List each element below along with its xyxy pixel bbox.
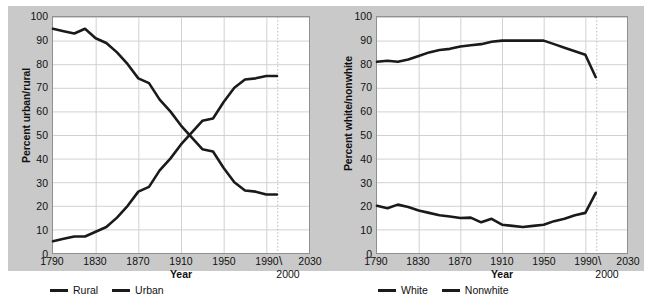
y-tick-label: 80 bbox=[346, 59, 372, 69]
figure-root: Percent urban/rural 10090807060504030201… bbox=[0, 0, 652, 303]
callout-2000-label: 2000 bbox=[595, 268, 618, 280]
y-tick-label: 20 bbox=[346, 201, 372, 211]
y-axis-tick-labels: 1009080706050403020100 bbox=[342, 16, 372, 254]
data-lines bbox=[53, 17, 309, 253]
chart-panel-white-nonwhite: Percent white/nonwhite 10090807060504030… bbox=[326, 6, 644, 271]
y-tick-label: 90 bbox=[346, 35, 372, 45]
y-tick-label: 60 bbox=[346, 106, 372, 116]
plot-area-white-nonwhite bbox=[376, 16, 628, 254]
y-tick-label: 30 bbox=[346, 178, 372, 188]
y-tick-label: 10 bbox=[346, 225, 372, 235]
y-tick-label: 10 bbox=[22, 225, 48, 235]
y-tick-label: 40 bbox=[346, 154, 372, 164]
x-tick-label: 1990 bbox=[574, 255, 597, 267]
y-tick-label: 50 bbox=[346, 130, 372, 140]
legend-item[interactable]: Urban bbox=[112, 284, 164, 296]
x-tick-label: 1870 bbox=[126, 255, 149, 267]
legend-urban-rural: RuralUrban bbox=[50, 283, 164, 297]
data-lines bbox=[377, 17, 627, 253]
x-axis-tick-labels: 1790183018701910195019902030 bbox=[362, 255, 646, 269]
legend-item[interactable]: White bbox=[378, 284, 428, 296]
legend-item[interactable]: Rural bbox=[50, 284, 98, 296]
x-tick-label: 1910 bbox=[490, 255, 513, 267]
legend-label: Urban bbox=[135, 284, 164, 296]
x-tick-label: 1990 bbox=[255, 255, 278, 267]
y-tick-label: 70 bbox=[346, 82, 372, 92]
x-tick-label: 1950 bbox=[532, 255, 555, 267]
x-tick-label: 1790 bbox=[364, 255, 387, 267]
y-tick-label: 100 bbox=[346, 11, 372, 21]
x-axis-title: Year bbox=[170, 268, 192, 280]
y-tick-label: 50 bbox=[22, 130, 48, 140]
y-tick-label: 20 bbox=[22, 201, 48, 211]
plot-area-urban-rural bbox=[52, 16, 310, 254]
x-tick-label: 1870 bbox=[448, 255, 471, 267]
legend-label: White bbox=[401, 284, 428, 296]
x-tick-label: 1830 bbox=[406, 255, 429, 267]
x-axis-title: Year bbox=[491, 268, 513, 280]
x-axis-tick-labels: 1790183018701910195019902030 bbox=[38, 255, 328, 269]
y-tick-label: 70 bbox=[22, 82, 48, 92]
callout-leader-icon: \ bbox=[598, 255, 601, 267]
x-tick-label: 2030 bbox=[616, 255, 639, 267]
legend-line-swatch-icon bbox=[50, 289, 68, 292]
chart-panel-urban-rural: Percent urban/rural 10090807060504030201… bbox=[8, 6, 326, 271]
y-axis-tick-labels: 1009080706050403020100 bbox=[18, 16, 48, 254]
y-tick-label: 80 bbox=[22, 59, 48, 69]
x-tick-label: 1950 bbox=[212, 255, 235, 267]
legend-white-nonwhite: WhiteNonwhite bbox=[378, 283, 509, 297]
callout-2000-label: 2000 bbox=[276, 268, 299, 280]
x-tick-label: 2030 bbox=[298, 255, 321, 267]
x-tick-label: 1830 bbox=[83, 255, 106, 267]
y-tick-label: 90 bbox=[22, 35, 48, 45]
x-tick-label: 1790 bbox=[40, 255, 63, 267]
callout-leader-icon: \ bbox=[279, 255, 282, 267]
legend-label: Rural bbox=[73, 284, 98, 296]
legend-line-swatch-icon bbox=[378, 289, 396, 292]
legend-line-swatch-icon bbox=[112, 289, 130, 292]
legend-item[interactable]: Nonwhite bbox=[442, 284, 509, 296]
x-tick-label: 1910 bbox=[169, 255, 192, 267]
y-tick-label: 30 bbox=[22, 178, 48, 188]
legend-line-swatch-icon bbox=[442, 289, 460, 292]
y-tick-label: 60 bbox=[22, 106, 48, 116]
legend-label: Nonwhite bbox=[465, 284, 509, 296]
y-tick-label: 40 bbox=[22, 154, 48, 164]
y-tick-label: 100 bbox=[22, 11, 48, 21]
